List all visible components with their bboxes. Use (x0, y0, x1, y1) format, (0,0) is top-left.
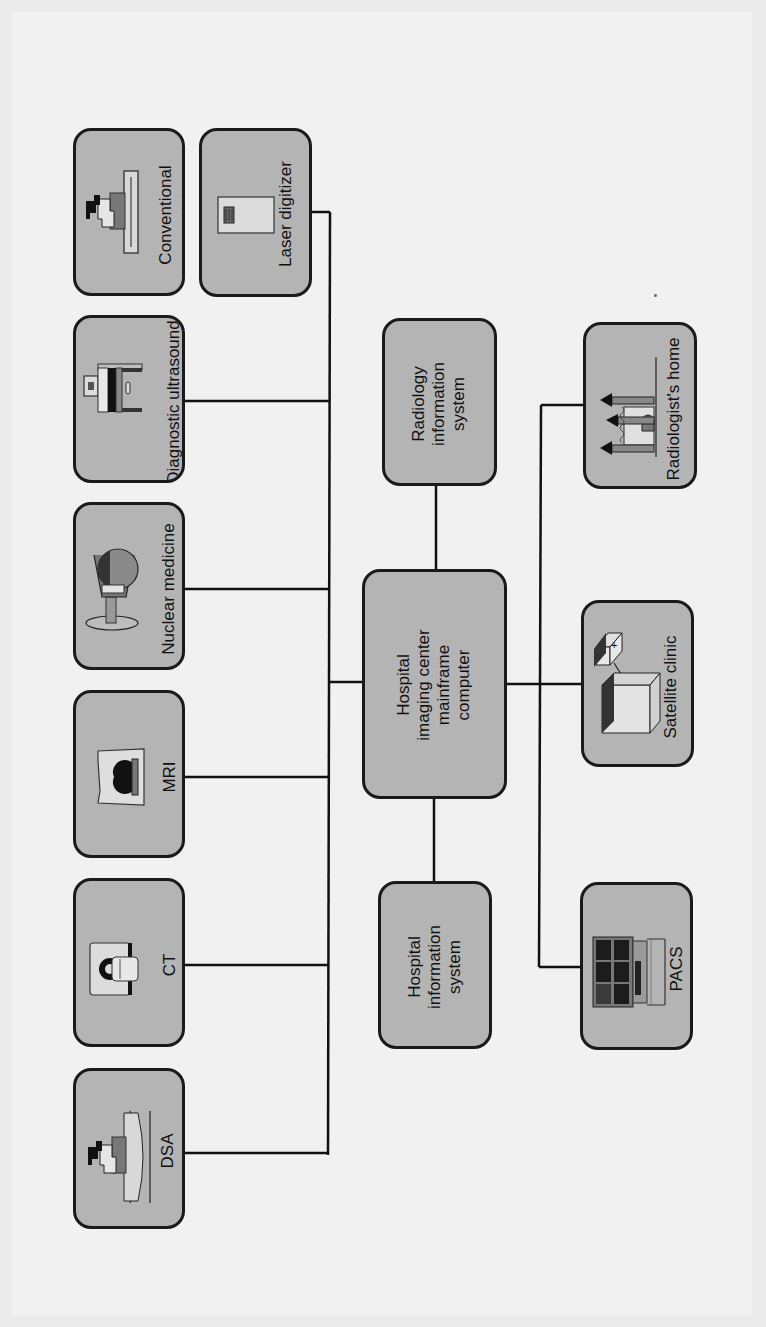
node-ct[interactable]: CT (73, 878, 185, 1047)
label-dsa: DSA (158, 1121, 178, 1181)
house-icon (598, 337, 662, 477)
label-radiologists-home: Radiologist's home (664, 331, 684, 487)
label-satellite-clinic: Satellite clinic (661, 612, 681, 762)
label-radiology-information-system: Radiology information system (409, 341, 471, 467)
ultrasound-machine-icon (82, 354, 162, 424)
node-radiologists-home[interactable]: Radiologist's home (583, 322, 697, 489)
xray-machine-icon (84, 163, 146, 263)
node-satellite-clinic[interactable]: + Satellite clinic (581, 600, 694, 767)
remote-bus-line (539, 405, 541, 967)
node-nuclear-medicine[interactable]: Nuclear medicine (73, 502, 185, 670)
node-mri[interactable]: MRI (73, 690, 185, 858)
label-pacs: PACS (667, 939, 687, 999)
node-hospital-imaging-center-mainframe[interactable]: Hospital imaging center mainframe comput… (362, 569, 507, 799)
gamma-camera-icon (84, 539, 156, 635)
ct-scanner-icon (88, 941, 144, 997)
label-laser-digitizer: Laser digitizer (276, 139, 298, 289)
film-digitizer-icon (216, 195, 276, 235)
clinic-buildings-icon: + (592, 625, 662, 745)
dsa-machine-icon (86, 1107, 152, 1207)
node-pacs[interactable]: PACS (580, 882, 693, 1050)
node-hospital-information-system[interactable]: Hospital information system (378, 881, 492, 1049)
label-nuclear-medicine: Nuclear medicine (159, 514, 179, 664)
pacs-workstation-icon (591, 935, 671, 1009)
mri-scanner-icon (96, 747, 152, 807)
label-ct: CT (160, 935, 180, 995)
label-mri: MRI (160, 747, 180, 807)
label-diagnostic-ultrasound: Diagnostic ultrasound (164, 319, 184, 483)
label-hospital-information-system: Hospital information system (405, 904, 467, 1030)
node-conventional-xray[interactable]: Conventional x-ray (73, 128, 185, 296)
node-diagnostic-ultrasound[interactable]: Diagnostic ultrasound (73, 315, 185, 483)
node-laser-digitizer[interactable]: Laser digitizer (199, 128, 312, 297)
stray-mark (654, 294, 657, 297)
svg-text:+: + (611, 639, 617, 651)
node-radiology-information-system[interactable]: Radiology information system (382, 318, 497, 486)
label-conventional-xray: Conventional x-ray (156, 155, 185, 275)
label-hub: Hospital imaging center mainframe comput… (394, 599, 476, 771)
modality-bus-line (328, 212, 330, 1155)
node-dsa[interactable]: DSA (73, 1068, 185, 1229)
